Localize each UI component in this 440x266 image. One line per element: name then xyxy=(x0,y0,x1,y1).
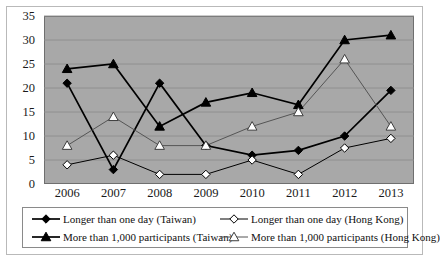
data-point-marker xyxy=(202,170,210,178)
y-axis-tick-label: 15 xyxy=(23,105,36,120)
y-axis-tick-label: 25 xyxy=(23,57,36,72)
open-triangle-icon xyxy=(219,230,249,244)
data-point-marker xyxy=(109,59,119,68)
data-point-marker xyxy=(386,122,396,131)
x-axis-tick-label: 2007 xyxy=(101,186,126,201)
data-point-marker xyxy=(340,54,350,63)
series-line xyxy=(67,35,391,126)
legend-item-longer-hongkong: Longer than one day (Hong Kong) xyxy=(219,210,403,228)
data-point-marker xyxy=(109,112,119,121)
legend-label: More than 1,000 participants (Taiwan) xyxy=(63,231,232,243)
data-point-marker xyxy=(109,151,117,159)
chart-legend: Longer than one day (Taiwan) Longer than… xyxy=(22,207,408,248)
y-axis-tick-label: 35 xyxy=(23,9,36,24)
y-axis-tick-label: 5 xyxy=(29,153,35,168)
series-line xyxy=(67,59,391,145)
legend-item-longer-taiwan: Longer than one day (Taiwan) xyxy=(31,210,196,228)
data-point-marker xyxy=(294,170,302,178)
data-point-marker xyxy=(63,79,71,87)
y-axis-tick-label: 0 xyxy=(29,177,35,192)
data-point-marker xyxy=(155,170,163,178)
x-axis-tick-label: 2008 xyxy=(147,186,172,201)
plot-region xyxy=(44,16,414,184)
legend-label: Longer than one day (Taiwan) xyxy=(63,213,196,225)
y-axis-tick-label: 10 xyxy=(23,129,36,144)
legend-item-participants-hongkong: More than 1,000 participants (Hong Kong) xyxy=(219,228,440,246)
line-chart-canvas xyxy=(44,16,414,184)
legend-item-participants-taiwan: More than 1,000 participants (Taiwan) xyxy=(31,228,232,246)
data-point-marker xyxy=(340,144,348,152)
x-axis-tick-label: 2009 xyxy=(193,186,218,201)
y-axis-tick-label: 30 xyxy=(23,33,36,48)
data-point-marker xyxy=(63,161,71,169)
legend-label: More than 1,000 participants (Hong Kong) xyxy=(251,231,440,243)
x-axis-tick-label: 2006 xyxy=(55,186,80,201)
x-axis-tick-labels: 20062007200820092010201120122013 xyxy=(44,186,414,206)
filled-triangle-icon xyxy=(31,230,61,244)
filled-diamond-icon xyxy=(31,212,61,226)
data-point-marker xyxy=(109,165,117,173)
data-point-marker xyxy=(386,30,396,39)
x-axis-tick-label: 2011 xyxy=(286,186,311,201)
data-point-marker xyxy=(387,134,395,142)
data-point-marker xyxy=(294,146,302,154)
y-axis-tick-labels: 05101520253035 xyxy=(0,16,40,184)
data-point-marker xyxy=(62,141,72,150)
x-axis-tick-label: 2010 xyxy=(240,186,265,201)
open-diamond-icon xyxy=(219,212,249,226)
y-axis-tick-label: 20 xyxy=(23,81,36,96)
data-point-marker xyxy=(247,88,257,97)
x-axis-tick-label: 2012 xyxy=(332,186,357,201)
x-axis-tick-label: 2013 xyxy=(378,186,403,201)
data-point-marker xyxy=(155,141,165,150)
legend-label: Longer than one day (Hong Kong) xyxy=(251,213,403,225)
